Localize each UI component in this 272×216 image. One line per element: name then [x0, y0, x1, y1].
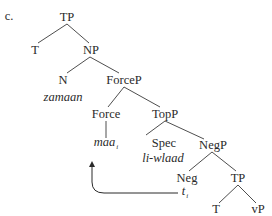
node-n: N	[58, 74, 67, 87]
node-tp-root: TP	[60, 11, 75, 24]
word-maa: maai	[94, 136, 118, 154]
trace-text: t	[182, 184, 185, 198]
node-t-lower: T	[212, 203, 220, 216]
edge-negp-tp	[212, 152, 236, 171]
movement-arrow	[92, 164, 178, 193]
edge-topp-spec	[146, 121, 165, 135]
node-forcep: ForceP	[106, 74, 141, 87]
edge-forcep-force	[108, 87, 124, 107]
node-spec: Spec	[152, 137, 176, 150]
edge-tp2-t	[219, 185, 238, 203]
edge-tp2-vp	[238, 185, 256, 203]
node-vp: vP	[251, 203, 264, 216]
edge-tp-np	[67, 24, 89, 43]
word-li-wlaad: li-wlaad	[142, 152, 184, 165]
node-np: NP	[83, 44, 99, 57]
example-label: c.	[5, 10, 14, 23]
node-neg: Neg	[177, 172, 198, 185]
edge-np-n	[67, 57, 90, 73]
trace-index: i	[186, 192, 188, 200]
index-i: i	[116, 143, 118, 151]
word-zamaan: zamaan	[44, 91, 83, 104]
edge-negp-neg	[189, 152, 212, 171]
node-negp: NegP	[199, 139, 227, 152]
trace: ti	[182, 185, 188, 203]
node-force: Force	[92, 108, 120, 121]
edge-tp-t	[38, 24, 67, 43]
node-topp: TopP	[152, 108, 178, 121]
node-tp-lower: TP	[231, 172, 246, 185]
edge-np-forcep	[90, 57, 119, 73]
node-t: T	[31, 44, 39, 57]
edge-forcep-topp	[124, 87, 160, 107]
word-maa-text: maa	[94, 135, 116, 149]
